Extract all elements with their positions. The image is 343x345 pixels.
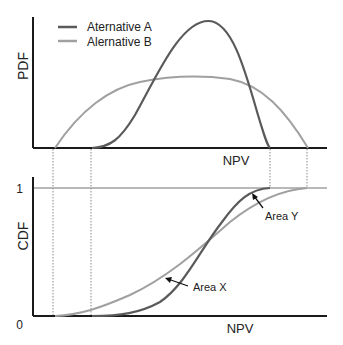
legend-label-b: Alernative B — [87, 35, 152, 49]
cdf-ytick-1: 1 — [16, 182, 23, 196]
area-x-arrowhead-icon — [165, 277, 172, 283]
cdf-curve-alternative-b — [55, 188, 307, 316]
cdf-panel: 1 0 CDF NPV Area X Area Y — [15, 177, 327, 336]
pdf-x-label: NPV — [223, 153, 250, 168]
area-x-label: Area X — [193, 281, 227, 293]
pdf-y-label: PDF — [15, 52, 31, 80]
legend-label-a: Aternative A — [87, 20, 152, 34]
guide-lines — [53, 149, 307, 316]
pdf-curve-alternative-b — [55, 77, 308, 148]
cdf-y-label: CDF — [15, 222, 31, 251]
legend: Aternative A Alernative B — [58, 20, 152, 49]
cdf-x-label: NPV — [227, 321, 254, 336]
area-y-label: Area Y — [265, 210, 299, 222]
chart-canvas: PDF NPV Aternative A Alernative B 1 0 CD… — [0, 0, 343, 345]
area-y-arrowhead-icon — [252, 193, 258, 200]
cdf-curve-alternative-a — [92, 188, 270, 316]
cdf-ytick-0: 0 — [16, 318, 23, 332]
pdf-panel: PDF NPV Aternative A Alernative B — [15, 17, 327, 168]
